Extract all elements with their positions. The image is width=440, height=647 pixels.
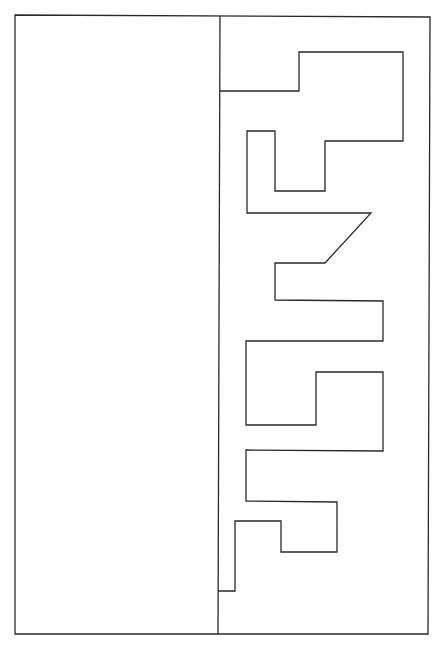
line-drawing [0,0,440,647]
outer-frame [15,15,430,634]
vertical-divider [218,16,220,634]
maze-path [218,52,403,591]
